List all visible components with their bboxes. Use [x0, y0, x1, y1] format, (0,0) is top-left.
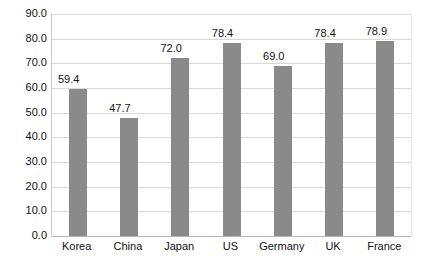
- y-axis-tick-label: 80.0: [1, 33, 47, 44]
- bar-value-label: 78.4: [314, 28, 335, 39]
- y-axis-tick-label: 10.0: [1, 205, 47, 216]
- x-axis-tick-label: Germany: [259, 240, 304, 252]
- y-axis-tick-labels: 90.080.070.060.050.040.030.020.010.00.0: [0, 14, 47, 236]
- bar-value-label: 72.0: [160, 43, 181, 54]
- bar[interactable]: [325, 43, 343, 236]
- y-axis-tick-label: 60.0: [1, 82, 47, 93]
- bar-value-label: 59.4: [58, 74, 79, 85]
- bar-value-label: 69.0: [263, 51, 284, 62]
- y-axis-tick-label: 20.0: [1, 181, 47, 192]
- x-axis-tick-label: Korea: [62, 240, 91, 252]
- bar[interactable]: [223, 43, 241, 236]
- y-axis-tick-label: 30.0: [1, 156, 47, 167]
- x-axis-tick-labels: KoreaChinaJapanUSGermanyUKFrance: [51, 240, 412, 260]
- bar[interactable]: [376, 41, 394, 236]
- x-axis-tick-label: Japan: [164, 240, 194, 252]
- gridline: [52, 39, 411, 40]
- bar[interactable]: [274, 66, 292, 236]
- bar[interactable]: [69, 89, 87, 236]
- plot-area: 59.447.772.078.469.078.478.9: [51, 14, 412, 236]
- x-axis-tick-label: UK: [325, 240, 340, 252]
- x-axis-tick-label: France: [367, 240, 401, 252]
- y-axis-tick-label: 40.0: [1, 131, 47, 142]
- bar-value-label: 78.4: [212, 28, 233, 39]
- y-axis-tick-label: 50.0: [1, 107, 47, 118]
- y-axis-tick-label: 90.0: [1, 8, 47, 19]
- gridline: [52, 236, 411, 237]
- gridline: [52, 14, 411, 15]
- y-axis-tick-label: 70.0: [1, 57, 47, 68]
- bar[interactable]: [171, 58, 189, 236]
- bar-value-label: 47.7: [109, 103, 130, 114]
- bar[interactable]: [120, 118, 138, 236]
- bar-value-label: 78.9: [366, 26, 387, 37]
- bar-chart: 90.080.070.060.050.040.030.020.010.00.0 …: [0, 0, 424, 273]
- x-axis-tick-label: China: [114, 240, 143, 252]
- y-axis-tick-label: 0.0: [1, 230, 47, 241]
- x-axis-tick-label: US: [223, 240, 238, 252]
